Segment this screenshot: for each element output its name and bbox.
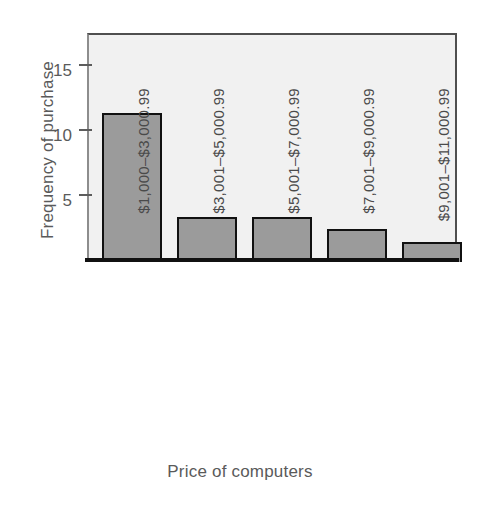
x-tick-label-3: $5,001–$7,000.99: [285, 88, 302, 268]
y-axis-title: Frequency of purchase: [38, 20, 58, 280]
y-tick-mark-5: [79, 194, 92, 196]
y-tick-mark-10: [79, 129, 92, 131]
bar-3: [252, 217, 312, 262]
bar-2: [177, 217, 237, 262]
x-tick-label-4: $7,001–$9,000.99: [360, 88, 377, 268]
bar-1: [102, 113, 162, 262]
y-tick-label-15: 15: [32, 61, 72, 81]
bar-chart-figure: Frequency of purchase 5 10 15 $1,000–$3,…: [0, 0, 480, 505]
x-tick-label-2: $3,001–$5,000.99: [210, 88, 227, 268]
y-tick-label-5: 5: [32, 191, 72, 211]
x-axis-title: Price of computers: [0, 462, 480, 482]
y-tick-mark-15: [79, 64, 92, 66]
x-tick-label-1: $1,000–$3,000.99: [135, 88, 152, 268]
y-tick-label-10: 10: [32, 126, 72, 146]
x-tick-label-5: $9,001–$11,000.99: [435, 88, 452, 268]
